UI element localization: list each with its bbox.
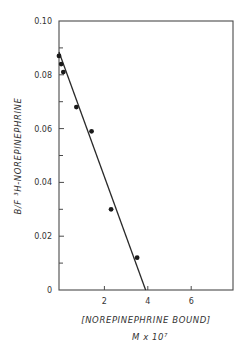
fit-line xyxy=(59,52,146,290)
scatchard-plot: 24600.020.040.060.080.10 [NOREPINEPHRINE… xyxy=(0,0,245,353)
x-tick-label: 4 xyxy=(145,297,150,306)
y-tick-label: 0.08 xyxy=(34,71,52,80)
data-point xyxy=(89,129,94,134)
x-tick-label: 6 xyxy=(189,297,194,306)
data-points xyxy=(57,54,140,261)
x-axis-units: M x 10⁷ xyxy=(132,332,168,342)
y-tick-label: 0 xyxy=(47,286,52,295)
data-point xyxy=(57,54,62,59)
data-point xyxy=(59,62,64,67)
y-tick-label: 0.02 xyxy=(34,232,52,241)
x-axis-label: [NOREPINEPHRINE BOUND] xyxy=(81,315,211,325)
plot-border xyxy=(59,21,233,290)
axis-ticks: 24600.020.040.060.080.10 xyxy=(34,17,194,306)
data-point xyxy=(61,70,66,75)
y-tick-label: 0.04 xyxy=(34,178,52,187)
y-tick-label: 0.10 xyxy=(34,17,52,26)
data-point xyxy=(109,207,114,212)
data-point xyxy=(74,105,79,110)
data-point xyxy=(135,255,140,260)
plot-frame xyxy=(59,21,233,290)
x-tick-label: 2 xyxy=(102,297,107,306)
regression-line xyxy=(59,52,146,290)
y-tick-label: 0.06 xyxy=(34,125,52,134)
y-axis-label: B/F ³H-NOREPINEPHRINE xyxy=(13,97,23,214)
